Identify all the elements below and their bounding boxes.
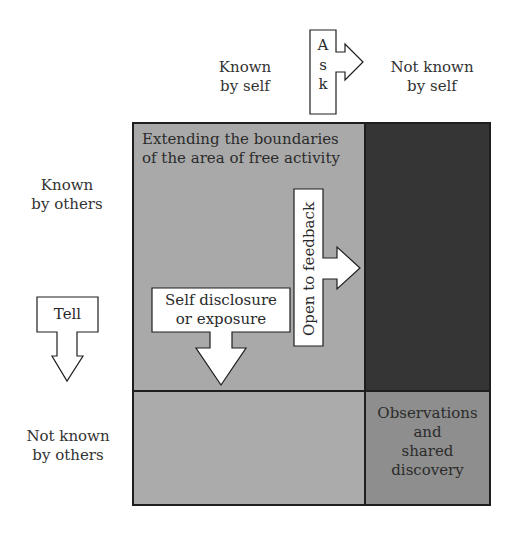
- ask-letter-k: k: [310, 74, 336, 94]
- tell-label: Tell: [37, 305, 98, 323]
- feedback-label: Open to feedback: [298, 191, 320, 348]
- ask-letter-s: s: [310, 56, 336, 74]
- self-disclosure-label: Self disclosure or exposure: [152, 291, 290, 329]
- self-disclosure-label-line1: Self disclosure: [152, 291, 290, 310]
- ask-letter-a: A: [310, 34, 336, 56]
- ask-label: A s k: [310, 34, 336, 94]
- arrow-layer: [0, 0, 513, 537]
- self-disclosure-label-line2: or exposure: [152, 310, 290, 329]
